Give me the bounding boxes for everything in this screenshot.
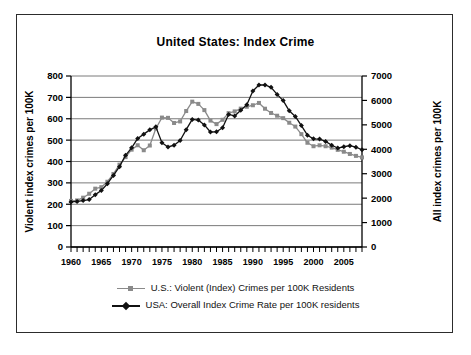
data-point-marker bbox=[353, 145, 358, 150]
data-point-marker bbox=[202, 108, 206, 112]
y-axis-right-label: All index crimes per 100K bbox=[432, 100, 443, 223]
data-point-marker bbox=[87, 192, 91, 196]
legend-item-violent: U.S.: Violent (Index) Crimes per 100K Re… bbox=[117, 283, 355, 293]
gridlines bbox=[71, 76, 362, 247]
data-point-marker bbox=[251, 103, 255, 107]
data-point-marker bbox=[160, 116, 164, 120]
data-point-marker bbox=[312, 144, 316, 148]
legend-label-violent: U.S.: Violent (Index) Crimes per 100K Re… bbox=[151, 283, 355, 293]
data-point-marker bbox=[190, 100, 194, 104]
svg-text:2005: 2005 bbox=[334, 257, 354, 267]
svg-text:2000: 2000 bbox=[303, 257, 323, 267]
data-point-marker bbox=[287, 121, 291, 125]
data-point-marker bbox=[342, 150, 346, 154]
svg-text:1000: 1000 bbox=[371, 217, 392, 228]
svg-text:200: 200 bbox=[47, 199, 63, 210]
svg-text:1970: 1970 bbox=[122, 257, 142, 267]
svg-text:1985: 1985 bbox=[213, 257, 233, 267]
svg-text:600: 600 bbox=[47, 113, 63, 124]
square-marker-icon bbox=[117, 283, 145, 293]
y-axis-left-label: Violent index crimes per 100K bbox=[24, 90, 35, 233]
data-point-marker bbox=[347, 143, 352, 148]
svg-text:6000: 6000 bbox=[371, 95, 392, 106]
data-series-layer bbox=[69, 82, 365, 204]
data-point-marker bbox=[317, 137, 322, 142]
data-point-marker bbox=[196, 102, 200, 106]
data-point-marker bbox=[263, 82, 268, 87]
svg-text:1975: 1975 bbox=[152, 257, 172, 267]
svg-text:1990: 1990 bbox=[243, 257, 263, 267]
data-point-marker bbox=[341, 144, 346, 149]
data-point-marker bbox=[299, 132, 303, 136]
data-point-marker bbox=[263, 107, 267, 111]
data-point-marker bbox=[172, 121, 176, 125]
y-axis-left-ticks bbox=[66, 76, 71, 247]
legend-item-overall: USA: Overall Index Crime Rate per 100K r… bbox=[112, 300, 360, 310]
x-axis-tick-labels: 1960196519701975198019851990199520002005 bbox=[61, 257, 354, 267]
svg-text:100: 100 bbox=[47, 220, 63, 231]
y-axis-left-tick-labels: 0100200300400500600700800 bbox=[47, 70, 63, 252]
svg-text:5000: 5000 bbox=[371, 119, 392, 130]
svg-text:400: 400 bbox=[47, 156, 63, 167]
svg-text:1960: 1960 bbox=[61, 257, 81, 267]
svg-text:1980: 1980 bbox=[182, 257, 202, 267]
chart-legend: U.S.: Violent (Index) Crimes per 100K Re… bbox=[17, 283, 454, 311]
diamond-marker-icon bbox=[112, 301, 140, 311]
svg-text:700: 700 bbox=[47, 92, 63, 103]
data-point-marker bbox=[208, 119, 212, 123]
svg-text:0: 0 bbox=[371, 241, 376, 252]
data-point-marker bbox=[184, 109, 188, 113]
data-point-marker bbox=[324, 144, 328, 148]
figure: United States: Index Crime 1960196519701… bbox=[0, 0, 471, 355]
svg-text:3000: 3000 bbox=[371, 168, 392, 179]
data-point-marker bbox=[166, 116, 170, 120]
y-axis-right-tick-labels: 01000200030004000500060007000 bbox=[371, 70, 392, 252]
data-point-marker bbox=[354, 154, 358, 158]
data-point-marker bbox=[257, 101, 261, 105]
data-point-marker bbox=[233, 109, 237, 113]
data-point-marker bbox=[93, 187, 97, 191]
svg-text:0: 0 bbox=[58, 241, 63, 252]
svg-text:7000: 7000 bbox=[371, 70, 392, 81]
svg-text:1995: 1995 bbox=[273, 257, 293, 267]
data-point-marker bbox=[136, 143, 140, 147]
x-axis-ticks bbox=[71, 247, 362, 252]
chart-plot-area: 1960196519701975198019851990199520002005… bbox=[17, 15, 454, 285]
chart-frame: United States: Index Crime 1960196519701… bbox=[16, 14, 453, 333]
svg-text:1965: 1965 bbox=[91, 257, 111, 267]
data-point-marker bbox=[360, 147, 365, 152]
data-point-marker bbox=[178, 119, 182, 123]
data-point-marker bbox=[305, 141, 309, 145]
svg-text:800: 800 bbox=[47, 70, 63, 81]
data-point-marker bbox=[148, 144, 152, 148]
data-point-marker bbox=[221, 118, 225, 122]
data-point-marker bbox=[360, 155, 364, 159]
data-point-marker bbox=[318, 143, 322, 147]
y-axis-right-ticks bbox=[362, 76, 367, 247]
svg-text:300: 300 bbox=[47, 177, 63, 188]
svg-text:2000: 2000 bbox=[371, 193, 392, 204]
svg-text:4000: 4000 bbox=[371, 144, 392, 155]
data-point-marker bbox=[142, 148, 146, 152]
data-point-marker bbox=[269, 111, 273, 115]
data-point-marker bbox=[215, 122, 219, 126]
data-point-marker bbox=[281, 116, 285, 120]
data-point-marker bbox=[275, 114, 279, 118]
series-line bbox=[71, 102, 362, 201]
data-point-marker bbox=[348, 152, 352, 156]
svg-text:500: 500 bbox=[47, 135, 63, 146]
legend-label-overall: USA: Overall Index Crime Rate per 100K r… bbox=[146, 300, 360, 310]
data-point-marker bbox=[293, 125, 297, 129]
